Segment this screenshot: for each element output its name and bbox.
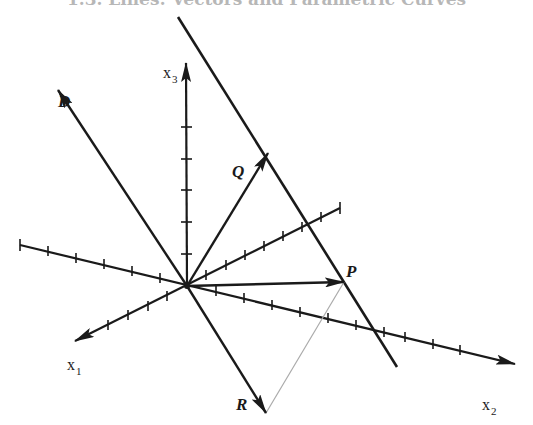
x3-axis-label: x	[163, 64, 171, 81]
vector-Q: Q	[187, 153, 268, 286]
x3-axis: x 3	[163, 63, 192, 286]
vector-diagram: x 2 x 1 x 3	[0, 0, 533, 425]
origin-point	[184, 283, 190, 289]
x2-axis: x 2	[20, 239, 515, 417]
guide-segment-P-R	[266, 282, 344, 413]
vector-R-label: R	[235, 395, 247, 414]
x2-axis-label: x	[482, 396, 490, 413]
x3-axis-subscript: 3	[172, 73, 178, 85]
line-through-P-Q	[178, 17, 397, 367]
x1-axis-subscript: 1	[76, 365, 82, 377]
vector-R: R	[187, 286, 266, 414]
vector-D-label: D	[57, 92, 70, 111]
vector-P: P	[187, 262, 357, 286]
vector-P-label: P	[345, 262, 357, 281]
x2-axis-subscript: 2	[491, 405, 497, 417]
x1-axis-label: x	[67, 356, 75, 373]
vector-Q-label: Q	[232, 162, 244, 181]
